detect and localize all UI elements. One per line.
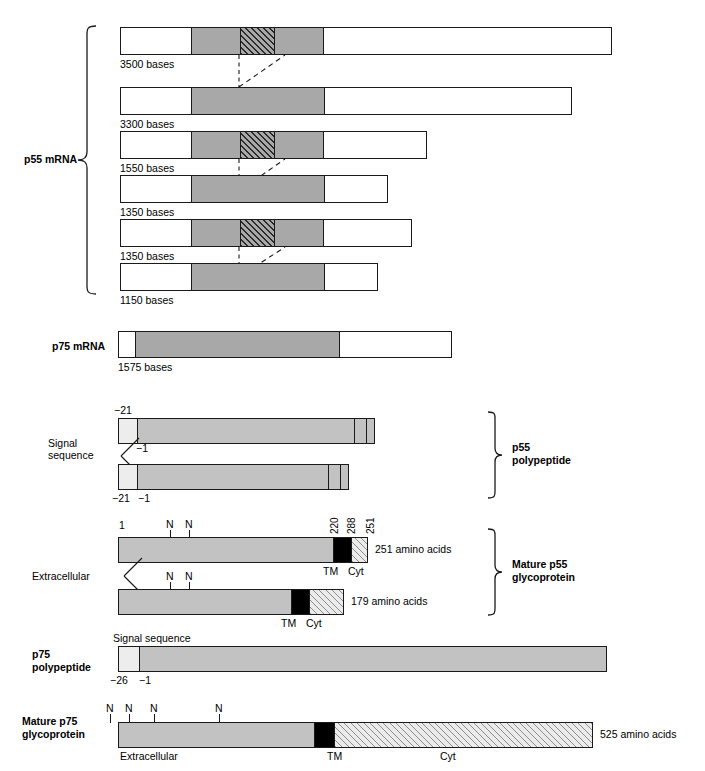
- extracellular-label-p75: Extracellular: [120, 750, 178, 763]
- mrna-bar-1350-a: [120, 175, 388, 203]
- extracellular-domain: [119, 723, 314, 747]
- utr-3prime: [339, 332, 451, 357]
- polypeptide-p75-end: −1: [139, 674, 151, 687]
- utr-5prime: [121, 176, 191, 202]
- cytoplasmic-domain: [351, 538, 367, 562]
- mature-region: [139, 647, 606, 671]
- transmembrane-domain: [291, 590, 309, 614]
- mature-p55-upper-n-terminus: 1: [119, 519, 125, 532]
- utr-5prime: [119, 332, 135, 357]
- coding-region-a: [191, 28, 240, 54]
- glyc-marker-p75-4: N: [215, 702, 223, 715]
- utr-3prime: [323, 28, 611, 54]
- group-label-p75-polypeptide-line2: polypeptide: [32, 661, 91, 674]
- group-label-mature-p75-line1: Mature p75: [22, 715, 77, 728]
- mature-p55-upper-size: 251 amino acids: [375, 543, 451, 556]
- coding-region: [191, 264, 324, 290]
- bracket-p55-mrna: [74, 24, 100, 296]
- coding-region-a: [191, 220, 240, 246]
- group-label-p75-polypeptide-line1: p75: [32, 648, 50, 661]
- utr-5prime: [121, 28, 191, 54]
- residue-number-288: 288: [346, 517, 359, 534]
- mrna-bar-p75-1575: [118, 331, 452, 358]
- coding-region-b: [275, 220, 323, 246]
- utr-3prime: [323, 132, 426, 158]
- cytoplasmic-domain: [309, 590, 343, 614]
- glyc-marker-upper-2: N: [185, 518, 193, 531]
- extracellular-domain: [119, 538, 333, 562]
- mrna-length-p75-1575: 1575 bases: [118, 361, 172, 374]
- alternative-exon: [240, 28, 275, 54]
- polypeptide-p55-lower: [118, 464, 349, 490]
- cyt-label-upper: Cyt: [348, 565, 364, 578]
- mrna-length-1550: 1550 bases: [120, 162, 174, 175]
- mrna-bar-1550: [120, 131, 427, 159]
- bracket-p55-polypeptide: [484, 410, 506, 500]
- glyc-marker-p75-1: N: [106, 702, 114, 715]
- polypeptide-p55-upper-start: −21: [114, 404, 132, 417]
- signal-sequence: [119, 465, 137, 489]
- utr-5prime: [121, 264, 191, 290]
- coding-region: [191, 176, 324, 202]
- signal-sequence-label-line1: Signal: [48, 437, 77, 450]
- extracellular-domain: [119, 590, 291, 614]
- group-label-p55-mrna: p55 mRNA: [24, 153, 77, 166]
- mature-p55-lower: [118, 589, 344, 615]
- mrna-bar-3500: [120, 27, 612, 55]
- glyc-marker-p75-3: N: [150, 702, 158, 715]
- mrna-bar-1350-b: [120, 219, 412, 247]
- extracellular-label-p55: Extracellular: [32, 570, 90, 583]
- mature-region: [137, 419, 354, 443]
- polypeptide-p55-lower-end: −1: [138, 492, 150, 505]
- coding-region: [135, 332, 339, 357]
- transmembrane-domain: [314, 723, 334, 747]
- coding-region-b: [275, 28, 323, 54]
- figure-canvas: p55 mRNA 3500 bases 3300 bases 1550 base…: [0, 0, 705, 771]
- utr-3prime: [324, 88, 571, 114]
- tm-label-lower: TM: [281, 617, 296, 630]
- mature-p75-size: 525 amino acids: [600, 728, 676, 741]
- mature-p55-upper: [118, 537, 368, 563]
- utr-3prime: [323, 220, 411, 246]
- signal-sequence: [119, 647, 139, 671]
- mrna-length-3300: 3300 bases: [120, 118, 174, 131]
- group-label-p75-mrna: p75 mRNA: [52, 340, 105, 353]
- mature-p55-lower-size: 179 amino acids: [351, 595, 427, 608]
- polypeptide-p55-upper-end: −1: [136, 442, 148, 455]
- utr-5prime: [121, 220, 191, 246]
- group-label-mature-p75-line2: glycoprotein: [22, 728, 85, 741]
- cytoplasmic-region: [340, 465, 348, 489]
- group-label-mature-p55-line2: glycoprotein: [512, 571, 575, 584]
- mature-region: [137, 465, 328, 489]
- glyc-marker-lower-2: N: [185, 570, 193, 583]
- mature-p75: [118, 722, 593, 748]
- cytoplasmic-region: [366, 419, 374, 443]
- utr-3prime: [324, 176, 387, 202]
- polypeptide-p75: [118, 646, 607, 672]
- tm-label-p75: TM: [327, 750, 342, 763]
- coding-region: [191, 88, 324, 114]
- glyc-tick-p75-1: [110, 714, 111, 723]
- polypeptide-p55-upper: [118, 418, 375, 444]
- coding-region-a: [191, 132, 240, 158]
- mrna-length-1350-a: 1350 bases: [120, 206, 174, 219]
- alternative-exon: [240, 220, 275, 246]
- signal-sequence-label-line2: sequence: [48, 449, 94, 462]
- bracket-mature-p55: [484, 527, 506, 617]
- group-label-p55-polypeptide-line1: p55: [512, 441, 530, 454]
- cyt-label-p75: Cyt: [440, 750, 456, 763]
- transmembrane-domain: [333, 538, 351, 562]
- splice-lines-1: [230, 55, 300, 90]
- glyc-marker-upper-1: N: [166, 518, 174, 531]
- residue-number-220: 220: [329, 517, 342, 534]
- tm-label-upper: TM: [323, 565, 338, 578]
- glyc-marker-p75-2: N: [125, 702, 133, 715]
- group-label-mature-p55-line1: Mature p55: [512, 558, 567, 571]
- residue-number-251: 251: [365, 517, 378, 534]
- alternative-exon: [240, 132, 275, 158]
- mrna-length-1150: 1150 bases: [120, 294, 174, 307]
- utr-5prime: [121, 132, 191, 158]
- transmembrane-region: [354, 419, 366, 443]
- group-label-p55-polypeptide-line2: polypeptide: [512, 454, 571, 467]
- polypeptide-p75-start: −26: [110, 674, 128, 687]
